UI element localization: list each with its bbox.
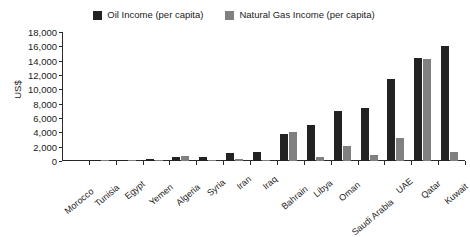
bar-oil-income	[280, 134, 288, 161]
bar-oil-income	[146, 159, 154, 162]
y-axis-tick-labels: 18,00016,00014,00012,00010,0008,0006,000…	[12, 32, 57, 161]
bar-natural-gas-income	[262, 160, 270, 161]
legend-swatch-icon-gas	[225, 11, 234, 20]
bar-oil-income	[119, 160, 127, 161]
x-axis-category-label: Tunisia	[93, 182, 121, 208]
x-axis-category-label: Kuwait	[443, 181, 470, 206]
y-axis-tick-label: 14,000	[12, 56, 57, 65]
bar-group	[196, 32, 223, 161]
y-axis-tick-label: 0	[12, 157, 57, 166]
x-axis-category-label: Bahrain	[280, 184, 310, 212]
bar-natural-gas-income	[289, 132, 297, 161]
bar-oil-income	[334, 111, 342, 161]
bar-natural-gas-income	[235, 159, 243, 162]
bar-natural-gas-income	[155, 160, 163, 161]
bar-oil-income	[172, 157, 180, 161]
x-axis-category-label: Libya	[312, 178, 335, 199]
x-axis-category-labels: MoroccoTunisiaEgyptYemenAlgeriaSyriaIran…	[62, 164, 465, 224]
y-axis-tick-label: 2,000	[12, 142, 57, 151]
x-axis-category-label: Iraq	[261, 174, 279, 192]
bar-group	[143, 32, 170, 161]
bar-oil-income	[92, 160, 100, 161]
legend-entry-oil-income: Oil Income (per capita)	[93, 10, 203, 20]
legend-entry-natural-gas-income: Natural Gas Income (per capita)	[225, 10, 374, 20]
bar-group	[89, 32, 116, 161]
bar-natural-gas-income	[396, 138, 404, 161]
bar-natural-gas-income	[128, 160, 136, 161]
x-axis-category-label: Syria	[205, 177, 227, 198]
bar-oil-income	[307, 125, 315, 161]
x-axis-category-label: Iran	[234, 174, 252, 192]
bar-natural-gas-income	[208, 160, 216, 161]
y-axis-tick-label: 12,000	[12, 71, 57, 80]
bar-oil-income	[414, 58, 422, 161]
x-axis-tick-mark	[465, 161, 466, 165]
bar-oil-income	[226, 153, 234, 161]
bar-group	[277, 32, 304, 161]
x-axis-category-label: Oman	[337, 180, 362, 203]
y-axis-tick-label: 8,000	[12, 99, 57, 108]
bar-group	[116, 32, 143, 161]
y-axis-tick-label: 10,000	[12, 85, 57, 94]
bar-group	[358, 32, 385, 161]
x-axis-category-label: Algeria	[174, 182, 202, 208]
bar-group	[223, 32, 250, 161]
bar-oil-income	[361, 108, 369, 161]
x-axis-category-label: Yemen	[147, 182, 175, 207]
bar-oil-income	[441, 46, 449, 161]
x-axis-category-label: UAE	[394, 176, 415, 196]
bar-natural-gas-income	[101, 160, 109, 161]
legend-swatch-icon-oil	[93, 11, 102, 20]
bar-natural-gas-income	[343, 146, 351, 161]
legend-label-gas: Natural Gas Income (per capita)	[239, 10, 374, 20]
bar-group	[384, 32, 411, 161]
bar-group	[169, 32, 196, 161]
y-axis-tick-label: 4,000	[12, 128, 57, 137]
bar-oil-income	[253, 152, 261, 161]
bar-oil-income	[65, 160, 73, 161]
x-axis-category-label: Egypt	[123, 179, 147, 201]
bar-natural-gas-income	[316, 157, 324, 161]
x-axis-category-label: Morocco	[63, 186, 96, 216]
bar-natural-gas-income	[450, 152, 458, 161]
bar-oil-income	[387, 79, 395, 161]
bar-natural-gas-income	[370, 155, 378, 161]
bar-oil-income	[199, 157, 207, 161]
bar-group	[438, 32, 465, 161]
bar-group	[250, 32, 277, 161]
legend-label-oil: Oil Income (per capita)	[107, 10, 203, 20]
y-axis-tick-label: 16,000	[12, 42, 57, 51]
x-axis-category-label: Qatar	[419, 178, 443, 200]
bar-group	[411, 32, 438, 161]
chart-legend: Oil Income (per capita) Natural Gas Inco…	[0, 7, 468, 23]
bar-natural-gas-income	[423, 59, 431, 161]
y-axis-tick-mark	[59, 161, 62, 162]
x-axis-category-label: Saudi Arabia	[350, 197, 396, 237]
bar-natural-gas-income	[181, 156, 189, 161]
bar-group	[304, 32, 331, 161]
y-axis-tick-label: 6,000	[12, 114, 57, 123]
bar-group	[62, 32, 89, 161]
y-axis-tick-label: 18,000	[12, 28, 57, 37]
bar-group	[331, 32, 358, 161]
plot-area	[62, 32, 465, 161]
